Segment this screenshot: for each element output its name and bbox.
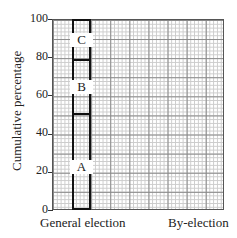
tick-mark (48, 210, 53, 211)
y-tick-20: 20 (22, 163, 48, 178)
segment-label-a: A (70, 160, 93, 174)
x-category-by-election: By-election (168, 215, 229, 231)
segment-label-b: B (70, 80, 93, 94)
segment-boundary-c (72, 59, 91, 61)
plot-area-grid: C B A (52, 19, 224, 210)
segment-boundary-b (72, 113, 91, 115)
y-tick-40: 40 (22, 125, 48, 140)
x-category-general-election: General election (40, 215, 126, 231)
y-tick-80: 80 (22, 49, 48, 64)
segment-label-c: C (70, 33, 93, 47)
y-tick-100: 100 (22, 11, 48, 26)
y-axis-label: Cumulative percentage (9, 61, 25, 171)
y-tick-60: 60 (22, 87, 48, 102)
